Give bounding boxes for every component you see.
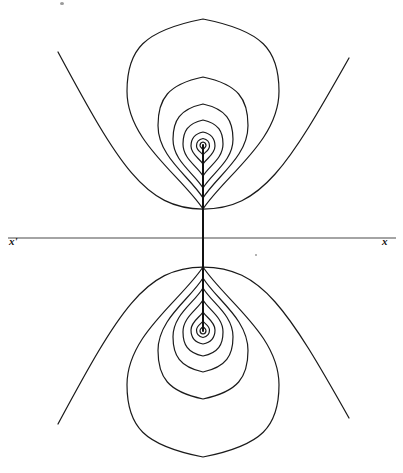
dipole-field-svg — [0, 0, 403, 473]
figure-root: x' x — [0, 0, 403, 473]
left-axis-label: x' — [9, 236, 18, 247]
right-axis-label: x — [382, 236, 388, 247]
speck-top — [60, 2, 64, 5]
speck-mid — [255, 254, 257, 256]
